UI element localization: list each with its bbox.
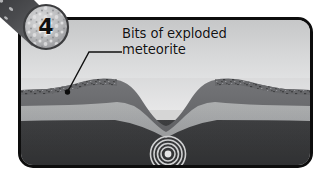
step-number-text: 4: [29, 10, 63, 44]
shockwave-core: [165, 151, 172, 158]
step-number-badge: 4: [0, 0, 86, 68]
callout-label-bits-of-exploded-meteorite: Bits of exploded meteorite: [122, 26, 282, 57]
illustration-root: Bits of exploded meteorite: [0, 0, 328, 181]
